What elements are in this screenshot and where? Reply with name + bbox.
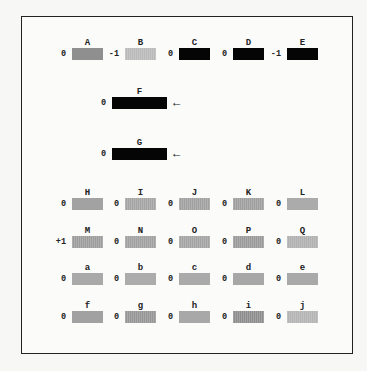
swatch-label: A [72,39,103,48]
swatch-value: 0 [261,273,281,285]
color-swatch [125,236,156,248]
swatch-item-e: e0 [287,273,318,285]
swatch-item-B: B-1 [125,48,156,60]
swatch-label: C [179,39,210,48]
color-swatch [287,198,318,210]
swatch-label: d [233,264,264,273]
swatch-value: 0 [207,311,227,323]
swatch-value: 0 [46,198,66,210]
swatch-item-j: j0 [287,311,318,323]
swatch-value: 0 [261,236,281,248]
swatch-item-G: G0← [112,148,167,160]
swatch-label: F [112,88,167,97]
swatch-label: f [72,302,103,311]
swatch-label: L [287,189,318,198]
swatch-value: 0 [99,273,119,285]
color-swatch [179,273,210,285]
swatch-value: 0 [99,198,119,210]
color-swatch [179,198,210,210]
swatch-value: 0 [207,48,227,60]
color-swatch [287,311,318,323]
color-swatch [233,236,264,248]
swatch-value: 0 [46,311,66,323]
swatch-label: M [72,227,103,236]
color-swatch [112,97,167,109]
color-swatch [287,48,318,60]
swatch-item-b: b0 [125,273,156,285]
left-arrow-icon: ← [173,97,180,109]
color-swatch [125,273,156,285]
swatch-label: K [233,189,264,198]
swatch-label: B [125,39,156,48]
swatch-value: -1 [99,48,119,60]
left-arrow-icon: ← [173,148,180,160]
swatch-item-J: J0 [179,198,210,210]
color-swatch [179,236,210,248]
swatch-value: 0 [86,148,106,160]
swatch-value: 0 [86,97,106,109]
swatch-item-h: h0 [179,311,210,323]
swatch-item-L: L0 [287,198,318,210]
swatch-label: Q [287,227,318,236]
swatch-label: D [233,39,264,48]
color-swatch [233,311,264,323]
color-swatch [233,273,264,285]
swatch-value: 0 [261,311,281,323]
swatch-value: 0 [153,198,173,210]
swatch-item-Q: Q0 [287,236,318,248]
swatch-label: E [287,39,318,48]
swatch-label: a [72,264,103,273]
swatch-item-F: F0← [112,97,167,109]
swatch-item-P: P0 [233,236,264,248]
color-swatch [179,48,210,60]
swatch-label: j [287,302,318,311]
swatch-value: 0 [153,273,173,285]
color-swatch [125,311,156,323]
color-swatch [179,311,210,323]
swatch-label: J [179,189,210,198]
swatch-value: 0 [99,311,119,323]
swatch-label: g [125,302,156,311]
swatch-item-g: g0 [125,311,156,323]
swatch-value: 0 [46,273,66,285]
color-swatch [233,48,264,60]
swatch-item-C: C0 [179,48,210,60]
swatch-value: 0 [261,198,281,210]
swatch-label: P [233,227,264,236]
swatch-value: +1 [46,236,66,248]
swatch-label: h [179,302,210,311]
swatch-value: 0 [207,236,227,248]
swatch-value: 0 [207,273,227,285]
swatch-label: I [125,189,156,198]
color-swatch [125,198,156,210]
swatch-item-d: d0 [233,273,264,285]
swatch-value: 0 [153,236,173,248]
swatch-item-N: N0 [125,236,156,248]
color-swatch [125,48,156,60]
swatch-item-K: K0 [233,198,264,210]
swatch-label: H [72,189,103,198]
swatch-label: c [179,264,210,273]
swatch-value: 0 [207,198,227,210]
swatch-item-c: c0 [179,273,210,285]
color-swatch [112,148,167,160]
swatch-value: -1 [261,48,281,60]
swatch-value: 0 [99,236,119,248]
swatch-label: N [125,227,156,236]
swatch-value: 0 [46,48,66,60]
swatch-value: 0 [153,48,173,60]
swatch-label: G [112,139,167,148]
swatch-item-E: E-1 [287,48,318,60]
swatch-label: e [287,264,318,273]
swatch-item-i: i0 [233,311,264,323]
swatch-item-I: I0 [125,198,156,210]
swatch-item-O: O0 [179,236,210,248]
color-swatch [287,236,318,248]
color-swatch [233,198,264,210]
swatch-label: i [233,302,264,311]
swatch-label: O [179,227,210,236]
swatch-label: b [125,264,156,273]
swatch-item-D: D0 [233,48,264,60]
color-swatch [287,273,318,285]
swatch-value: 0 [153,311,173,323]
